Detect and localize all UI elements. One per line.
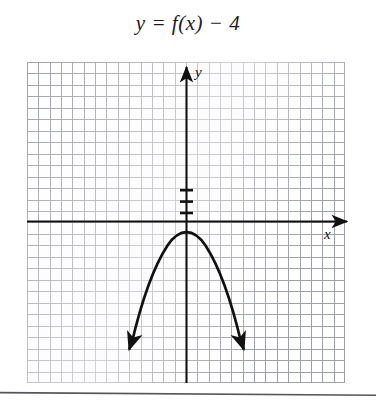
graph-figure (27, 62, 345, 383)
page-divider-rule (0, 391, 376, 397)
plot-vector-layer (0, 0, 376, 409)
worksheet-page: y = f(x) − 4 (0, 0, 376, 409)
x-axis-label: x (324, 227, 331, 242)
y-axis-label: y (195, 65, 202, 80)
